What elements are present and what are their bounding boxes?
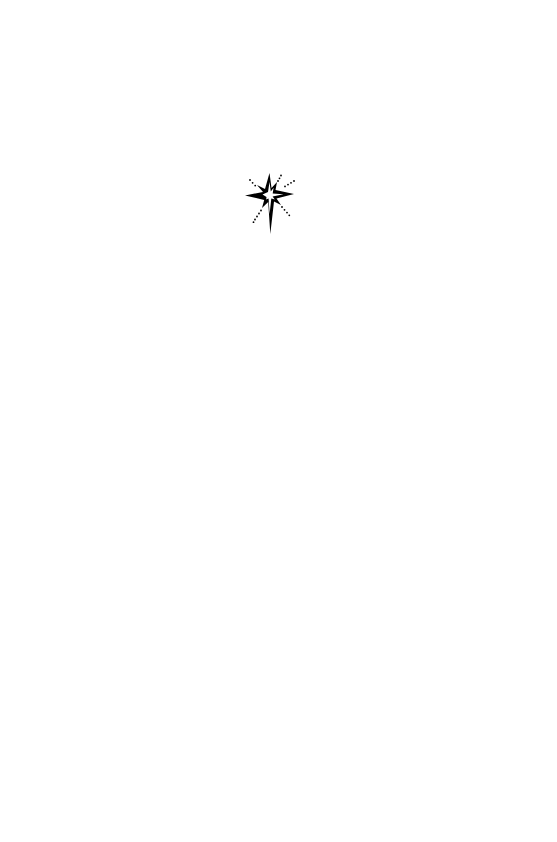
blank-page	[0, 0, 557, 842]
starburst-icon	[240, 168, 300, 238]
star-ornament	[240, 168, 300, 238]
